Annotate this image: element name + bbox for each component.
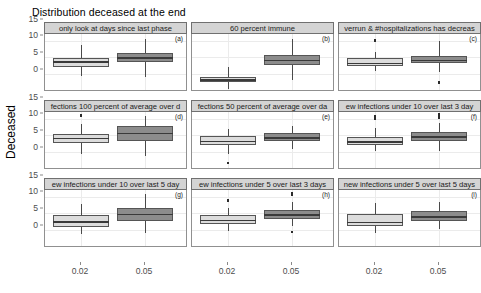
y-tick-mark — [40, 147, 43, 148]
gridline-horizontal — [339, 74, 480, 75]
facet-row: ew infections under 10 over last 5 day(g… — [44, 178, 474, 248]
x-tick-mark — [374, 262, 375, 265]
panel-strip-header: ew infections under 10 over last 5 day — [44, 178, 187, 190]
outlier-point — [291, 192, 294, 195]
panel-strip-label: ew infections under 10 over last 3 day — [346, 102, 473, 111]
panel-strip-header: new infections under 5 over last 5 days — [338, 178, 481, 190]
gridline-horizontal — [339, 119, 480, 120]
median-line — [200, 141, 256, 142]
facet-panel-d: fections 100 percent of average over d(d… — [44, 100, 187, 170]
median-line — [264, 137, 320, 138]
x-tick-label: 0.05 — [283, 266, 300, 276]
outlier-point — [291, 231, 294, 234]
x-tick-label: 0.02 — [366, 266, 383, 276]
facet-panel-i: new infections under 5 over last 5 days(… — [338, 178, 481, 248]
gridline-horizontal — [192, 119, 333, 120]
panel-strip-label: verrun & #hospitalizations has decreas — [344, 24, 474, 33]
y-tick-label: 0 — [33, 220, 38, 230]
x-tick-mark — [438, 262, 439, 265]
panel-tag: (a) — [175, 35, 183, 42]
panel-strip-header: 60 percent immune — [191, 22, 334, 34]
gridline-horizontal — [192, 152, 333, 153]
facet-panel-e: fections 50 percent of average over da(e… — [191, 100, 334, 170]
panel-plot-area: (h) — [191, 190, 334, 247]
median-line — [411, 136, 467, 137]
y-tick-label: 15 — [28, 92, 38, 102]
panel-strip-header: ew infections under 5 over last 3 days — [191, 178, 334, 190]
facet-panel-c: verrun & #hospitalizations has decreas(c… — [338, 22, 481, 92]
panel-strip-label: new infections under 5 over last 5 days — [344, 180, 475, 189]
y-tick-mark — [40, 130, 43, 131]
outlier-point — [227, 199, 230, 202]
y-tick-mark — [40, 191, 43, 192]
facet-panel-f: ew infections under 10 over last 3 day(f… — [338, 100, 481, 170]
gridline-horizontal — [339, 230, 480, 231]
panel-plot-area: (i) — [338, 190, 481, 247]
outlier-point — [438, 81, 441, 84]
panel-strip-label: ew infections under 5 over last 3 days — [199, 180, 326, 189]
gridline-horizontal — [45, 230, 186, 231]
median-line — [347, 63, 403, 64]
panel-strip-label: 60 percent immune — [230, 24, 295, 33]
outlier-point — [374, 118, 377, 121]
gridline-horizontal — [339, 152, 480, 153]
y-tick-label: 0 — [33, 142, 38, 152]
outlier-point — [438, 113, 441, 116]
median-line — [264, 214, 320, 215]
facet-grid: only look at days since last phase(a)60 … — [44, 22, 474, 262]
y-tick-mark — [40, 174, 43, 175]
page-title: Distribution deceased at the end — [32, 6, 186, 18]
y-tick-label: 10 — [28, 108, 38, 118]
x-tick-mark — [80, 262, 81, 265]
y-tick-mark — [40, 96, 43, 97]
y-tick-mark — [40, 18, 43, 19]
gridline-horizontal — [192, 74, 333, 75]
outlier-point — [438, 116, 441, 119]
median-line — [117, 133, 173, 134]
median-line — [200, 79, 256, 80]
y-tick-label: 10 — [28, 30, 38, 40]
panel-tag: (d) — [175, 113, 183, 120]
panel-tag: (b) — [322, 35, 330, 42]
panel-plot-area: (a) — [44, 34, 187, 91]
panel-tag: (g) — [175, 191, 183, 198]
gridline-horizontal — [192, 230, 333, 231]
box-iqr — [347, 214, 403, 225]
gridline-horizontal — [45, 152, 186, 153]
outlier-point — [374, 39, 377, 42]
y-tick-mark — [40, 208, 43, 209]
y-tick-label: 0 — [33, 64, 38, 74]
x-tick-mark — [227, 262, 228, 265]
panel-strip-header: fections 50 percent of average over da — [191, 100, 334, 112]
gridline-horizontal — [45, 41, 186, 42]
x-tick-label: 0.02 — [219, 266, 236, 276]
outlier-point — [227, 162, 230, 165]
y-axis-ticks: 051015051015051015 — [0, 0, 44, 240]
x-tick-label: 0.02 — [72, 266, 89, 276]
gridline-horizontal — [192, 197, 333, 198]
panel-tag: (e) — [322, 113, 330, 120]
panel-strip-label: ew infections under 10 over last 5 day — [52, 180, 179, 189]
facet-panel-g: ew infections under 10 over last 5 day(g… — [44, 178, 187, 248]
panel-strip-header: ew infections under 10 over last 3 day — [338, 100, 481, 112]
panel-plot-area: (b) — [191, 34, 334, 91]
panel-strip-label: fections 100 percent of average over d — [51, 102, 181, 111]
panel-strip-header: only look at days since last phase — [44, 22, 187, 34]
y-tick-label: 5 — [33, 203, 38, 213]
median-line — [264, 60, 320, 61]
y-tick-mark — [40, 225, 43, 226]
y-tick-label: 10 — [28, 186, 38, 196]
panel-plot-area: (d) — [44, 112, 187, 169]
gridline-horizontal — [192, 41, 333, 42]
panel-plot-area: (g) — [44, 190, 187, 247]
y-tick-label: 5 — [33, 125, 38, 135]
y-tick-label: 15 — [28, 170, 38, 180]
panel-strip-label: only look at days since last phase — [59, 24, 172, 33]
x-axis-ticks: 0.020.050.020.050.020.05 — [44, 262, 474, 280]
x-tick-mark — [291, 262, 292, 265]
panel-plot-area: (f) — [338, 112, 481, 169]
y-tick-label: 5 — [33, 47, 38, 57]
panel-plot-area: (c) — [338, 34, 481, 91]
panel-tag: (i) — [471, 191, 477, 198]
facet-row: fections 100 percent of average over d(d… — [44, 100, 474, 170]
